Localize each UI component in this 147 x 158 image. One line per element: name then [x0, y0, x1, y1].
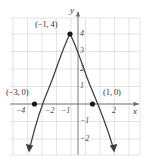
y-tick-label-1: 1 — [80, 82, 84, 90]
y-axis-label: y — [70, 6, 74, 15]
vertex-label: (−1, 4) — [35, 20, 58, 29]
graph-figure: (−1, 4) (−3, 0) (1, 0) −4 −2 −1 2 4 3 2 … — [0, 0, 147, 158]
right-intercept-label: (1, 0) — [103, 88, 121, 97]
x-tick-label-neg4: −4 — [16, 107, 25, 115]
y-tick-label-neg1: −1 — [80, 117, 89, 125]
vertex-point — [67, 31, 72, 36]
y-tick-label-3: 3 — [80, 47, 84, 55]
curve-left-arrowhead — [26, 144, 33, 153]
left-intercept-label: (−3, 0) — [6, 88, 29, 97]
y-tick-label-neg2: −2 — [80, 135, 89, 143]
right-intercept-point — [90, 101, 95, 106]
y-axis-arrowhead — [76, 11, 80, 17]
coordinate-plane — [0, 0, 147, 158]
x-tick-label-neg1: −1 — [61, 107, 70, 115]
y-tick-label-2: 2 — [80, 65, 84, 73]
x-tick-label-neg2: −2 — [45, 107, 54, 115]
left-intercept-point — [32, 101, 37, 106]
x-axis-label: x — [133, 107, 137, 116]
y-tick-label-4: 4 — [80, 30, 84, 38]
axes — [10, 12, 139, 155]
parabola-curve — [30, 34, 113, 147]
x-tick-label-2: 2 — [112, 107, 116, 115]
curve-right-arrowhead — [110, 144, 118, 153]
